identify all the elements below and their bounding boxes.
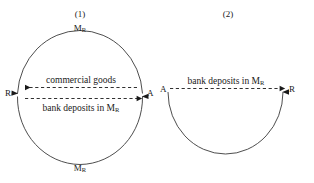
panel-1-top-money-subscript: R bbox=[82, 26, 87, 33]
panel-2-heading: (2) bbox=[223, 10, 234, 19]
figure-root: (1) MR MR R A commercial goods bank depo… bbox=[0, 0, 314, 183]
panel-2-arc-right bbox=[226, 92, 284, 154]
panel-1-node-left-r: R bbox=[5, 89, 11, 98]
panel-2-flow-label-bank-deposits: bank deposits in MR bbox=[187, 77, 264, 87]
panel-1-flow-label-commercial-goods: commercial goods bbox=[46, 76, 116, 86]
panel-1-flow-label-commercial-goods-base: commercial goods bbox=[46, 75, 116, 85]
panel-1-heading: (1) bbox=[75, 10, 86, 19]
panel-2-graphics bbox=[168, 89, 283, 155]
panel-2-arc-left bbox=[168, 92, 226, 154]
diagram-canvas bbox=[0, 0, 314, 183]
panel-1-top-money-label: MR bbox=[74, 24, 87, 33]
panel-1-flow-label-bank-deposits-base: bank deposits in M bbox=[42, 103, 115, 113]
panel-2-node-left-a: A bbox=[160, 85, 167, 94]
panel-1-node-right-a: A bbox=[147, 89, 154, 98]
panel-1-bottom-money-label: MR bbox=[74, 164, 87, 173]
panel-1-bottom-money-base: M bbox=[74, 163, 82, 173]
panel-2-flow-label-bank-deposits-base: bank deposits in M bbox=[187, 76, 260, 86]
panel-2-node-right-r: R bbox=[289, 85, 295, 94]
panel-1-flow-label-bank-deposits-subscript: R bbox=[115, 106, 120, 113]
panel-1-graphics bbox=[17, 31, 142, 165]
panel-1-flow-label-bank-deposits: bank deposits in MR bbox=[42, 104, 119, 114]
panel-1-bottom-money-subscript: R bbox=[82, 166, 87, 173]
panel-2-flow-label-bank-deposits-subscript: R bbox=[260, 79, 265, 86]
panel-1-top-money-base: M bbox=[74, 23, 82, 33]
